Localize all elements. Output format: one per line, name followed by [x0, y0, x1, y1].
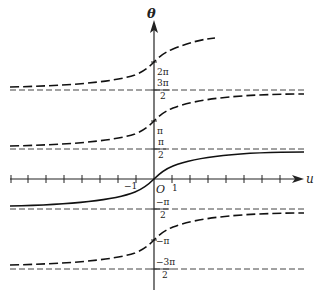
origin-label: O [156, 183, 165, 196]
theta-axis [150, 20, 158, 290]
level-label-3pi-num: 3π [157, 78, 169, 88]
curve-branch-plus-pi [10, 94, 304, 146]
tick-label-one: 1 [172, 183, 178, 193]
multivalued-arctan-diagram: θ u O −1 1 2π 3π 2 π π 2 −π 2 −π −3π 2 [0, 0, 317, 290]
tick-label-minus-one: −1 [124, 181, 137, 191]
u-axis-label: u [306, 172, 314, 186]
level-label-3pi-den: 2 [160, 91, 166, 101]
level-label-2pi: 2π [157, 67, 169, 77]
curve-branch-plus-2pi [10, 38, 215, 87]
level-label-neg-pi-2-num: −π [156, 197, 170, 207]
theta-axis-label: θ [147, 6, 156, 21]
diagram-canvas: θ u O −1 1 2π 3π 2 π π 2 −π 2 −π −3π 2 [0, 0, 317, 290]
level-label-neg-3pi-2-num: −3π [156, 257, 175, 267]
level-label-pi: π [157, 126, 163, 136]
level-label-neg-pi-2-den: 2 [160, 210, 166, 220]
level-label-pi-2-den: 2 [158, 150, 164, 160]
level-label-pi-2-num: π [158, 137, 164, 147]
level-label-neg-pi: −π [156, 236, 170, 246]
level-label-neg-3pi-2-den: 2 [162, 270, 168, 280]
